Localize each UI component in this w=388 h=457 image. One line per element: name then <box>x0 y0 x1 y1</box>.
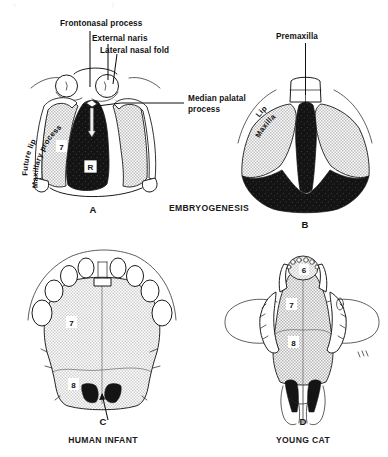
panel-c-incisive-block <box>94 278 111 286</box>
panel-c-tooth-left-4 <box>32 300 52 326</box>
caption-young-cat: YOUNG CAT <box>276 435 330 445</box>
panel-b-palatal-cleft-dark <box>296 102 317 193</box>
svg-text:R: R <box>88 163 94 172</box>
panel-c-tooth-right-4 <box>152 300 172 326</box>
panel-c-tooth-right-2 <box>127 266 144 287</box>
panel-a-right-lip-curl <box>142 178 157 192</box>
svg-text:7: 7 <box>289 301 294 310</box>
svg-text:8: 8 <box>71 381 76 390</box>
panel-c-region-7-marker: 7 <box>66 316 77 328</box>
panel-c-tooth-left-3 <box>45 280 63 302</box>
panel-d-region-8-marker: 8 <box>288 336 299 348</box>
svg-text:6: 6 <box>302 266 307 275</box>
caption-human-infant: HUMAN INFANT <box>68 435 138 445</box>
panel-a-right-nostril-mound <box>96 75 119 98</box>
svg-text:8: 8 <box>291 339 296 348</box>
panel-d-region-7-marker: 7 <box>286 298 297 310</box>
panel-c-tooth-right-3 <box>141 280 159 302</box>
label-median-palatal-process-line2: process <box>188 105 220 114</box>
panel-d-region-6-marker: 6 <box>299 264 309 275</box>
panel-letter-d: D <box>300 416 307 427</box>
label-external-naris: External naris <box>92 34 148 43</box>
label-frontonasal-process: Frontonasal process <box>60 19 143 28</box>
panel-c-region-8-marker: 8 <box>68 378 79 390</box>
panel-letter-a: A <box>90 204 97 215</box>
label-lateral-nasal-fold: Lateral nasal fold <box>100 46 169 55</box>
anatomical-figure: Future lip Maxillary process 7 R Fronton… <box>0 0 388 457</box>
svg-text:7: 7 <box>69 319 74 328</box>
panel-c-tooth-left-2 <box>61 266 78 287</box>
panel-a-left-nostril-mound <box>56 75 78 97</box>
section-label-embryogenesis: EMBRYOGENESIS <box>169 203 249 213</box>
svg-text:7: 7 <box>59 143 64 152</box>
panel-a-region-7-marker: 7 <box>56 140 67 152</box>
label-premaxilla: Premaxilla <box>276 32 318 41</box>
label-median-palatal-process-line1: Median palatal <box>188 94 246 103</box>
panel-letter-c: C <box>100 416 107 427</box>
panel-c-tooth-right-1 <box>110 258 126 278</box>
panel-c-tooth-left-1 <box>78 258 94 278</box>
panel-a-region-r-marker: R <box>84 160 97 173</box>
panel-letter-b: B <box>302 219 309 230</box>
